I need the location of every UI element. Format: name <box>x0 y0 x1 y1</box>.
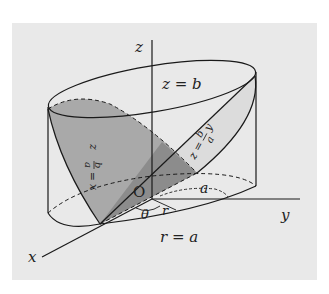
svg-text:z: z <box>87 143 100 150</box>
origin-label: O <box>133 183 145 201</box>
radius-a-arc <box>160 188 228 197</box>
svg-text:a: a <box>83 162 94 168</box>
bottom-circle-label: r = a <box>160 228 198 246</box>
svg-text:=: = <box>86 172 99 181</box>
z-axis-label: z <box>134 38 143 56</box>
r-label: r <box>162 203 169 218</box>
cylinder-diagram: z y x O z = b r = a a θ r z = b a y x = … <box>0 0 329 294</box>
y-axis-label: y <box>280 206 290 224</box>
svg-text:x: x <box>86 183 99 190</box>
theta-label: θ <box>141 207 149 222</box>
x-axis-label: x <box>28 248 37 266</box>
radius-a-label: a <box>200 180 208 196</box>
top-plane-label: z = b <box>161 75 202 93</box>
